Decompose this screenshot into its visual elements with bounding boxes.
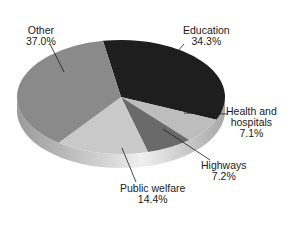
- label-education-value: 34.3%: [183, 36, 230, 47]
- label-public-welfare: Public welfare 14.4%: [120, 183, 185, 205]
- pie-slices: [17, 40, 225, 154]
- label-welfare-value: 14.4%: [120, 194, 185, 205]
- label-other: Other 37.0%: [26, 25, 56, 47]
- label-health: Health and hospitals 7.1%: [226, 106, 277, 139]
- label-highways: Highways 7.2%: [201, 160, 247, 182]
- label-highways-value: 7.2%: [201, 171, 247, 182]
- label-health-value: 7.1%: [226, 128, 277, 139]
- label-other-value: 37.0%: [26, 36, 56, 47]
- label-education: Education 34.3%: [183, 25, 230, 47]
